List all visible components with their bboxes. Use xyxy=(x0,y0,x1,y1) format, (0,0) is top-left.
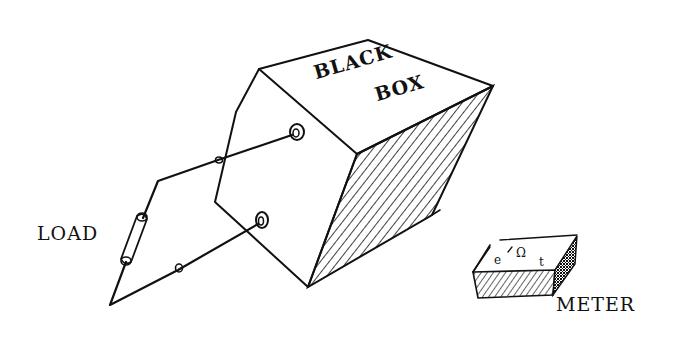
load-resistor xyxy=(121,213,147,265)
black-box xyxy=(215,40,493,287)
meter-scale xyxy=(508,247,512,252)
terminal-lower xyxy=(256,212,268,228)
meter-front-side xyxy=(473,270,555,298)
meter-symbol-t: t xyxy=(539,255,544,269)
meter-symbol-e: e xyxy=(494,253,501,267)
circuit-wires xyxy=(110,135,292,305)
meter-label: METER xyxy=(556,293,635,315)
meter xyxy=(473,235,577,298)
meter-right-side xyxy=(553,236,577,295)
black-box-shaded-side xyxy=(308,86,493,287)
terminal-upper xyxy=(290,124,304,140)
load-label: LOAD xyxy=(37,222,98,244)
meter-symbol-ohm: Ω xyxy=(516,246,526,260)
